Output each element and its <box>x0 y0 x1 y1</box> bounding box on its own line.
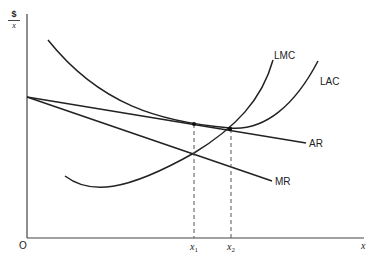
mr-curve <box>27 97 272 181</box>
x2-label: x2 <box>227 241 235 254</box>
mr-label: MR <box>275 176 291 187</box>
intersection-point <box>228 127 232 131</box>
x1-label: x1 <box>190 241 198 254</box>
origin-label: O <box>19 240 27 251</box>
diagram: $ x LMC LAC AR MR O x x1 x2 <box>0 0 381 264</box>
lac-label: LAC <box>320 76 339 87</box>
y-axis-label: $ x <box>8 10 20 30</box>
ar-label: AR <box>309 138 323 149</box>
lmc-label: LMC <box>274 50 295 61</box>
diagram-canvas <box>0 0 381 264</box>
tangency-point <box>192 122 196 126</box>
lmc-curve <box>65 60 273 187</box>
x-axis-label: x <box>361 240 365 251</box>
ar-curve <box>27 97 306 143</box>
